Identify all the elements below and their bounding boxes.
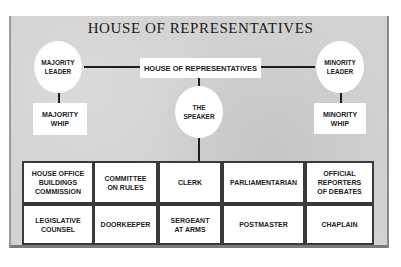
office-doorkeeper: DOORKEEPER bbox=[95, 206, 156, 243]
office-postmaster: POSTMASTER bbox=[224, 206, 303, 243]
connector-majority-to-house bbox=[84, 66, 140, 68]
office-parliamentarian: PARLIAMENTARIAN bbox=[224, 163, 303, 202]
connector-majority-leader-to-whip bbox=[58, 93, 60, 103]
connector-house-to-minority bbox=[260, 66, 315, 68]
majority-whip-box: MAJORITY WHIP bbox=[33, 103, 87, 135]
speaker-label: THE SPEAKER bbox=[183, 103, 214, 121]
office-house-office-buildings-commission: HOUSE OFFICE BUILDINGS COMMISSION bbox=[24, 163, 92, 202]
connector-speaker-to-offices bbox=[198, 138, 200, 163]
chart-title: HOUSE OF REPRESENTATIVES bbox=[0, 20, 401, 37]
office-legislative-counsel: LEGISLATIVE COUNSEL bbox=[24, 206, 92, 243]
minority-whip-box: MINORITY WHIP bbox=[314, 103, 366, 134]
speaker-node: THE SPEAKER bbox=[175, 86, 223, 138]
majority-leader-node: MAJORITY LEADER bbox=[34, 41, 82, 93]
office-chaplain: CHAPLAIN bbox=[307, 206, 372, 243]
minority-leader-node: MINORITY LEADER bbox=[316, 41, 364, 93]
office-sergeant-at-arms: SERGEANT AT ARMS bbox=[160, 206, 220, 243]
office-official-reporters-of-debates: OFFICIAL REPORTERS OF DEBATES bbox=[307, 163, 372, 202]
house-of-representatives-box: HOUSE OF REPRESENTATIVES bbox=[140, 58, 261, 78]
org-chart: HOUSE OF REPRESENTATIVES HOUSE OF REPRES… bbox=[0, 0, 401, 267]
minority-leader-label: MINORITY LEADER bbox=[324, 58, 355, 76]
office-committee-on-rules: COMMITTEE ON RULES bbox=[95, 163, 156, 202]
office-clerk: CLERK bbox=[160, 163, 220, 202]
majority-leader-label: MAJORITY LEADER bbox=[41, 58, 74, 76]
connector-house-to-speaker bbox=[198, 78, 200, 86]
connector-minority-leader-to-whip bbox=[340, 93, 342, 103]
